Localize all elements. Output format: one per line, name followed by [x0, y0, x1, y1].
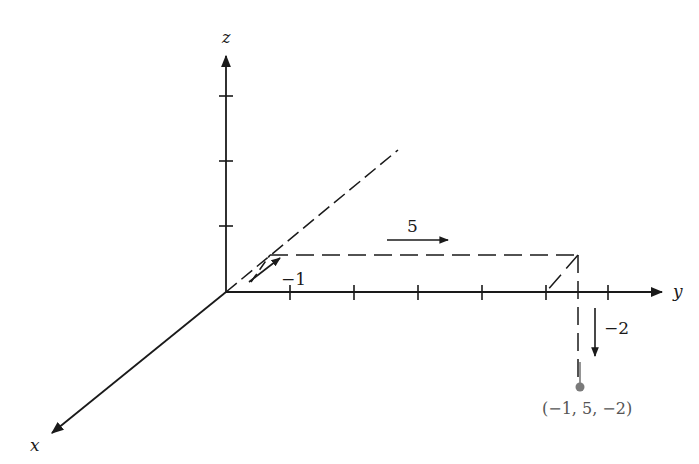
step-label-neg-z: −2 [604, 318, 629, 338]
negative-x-dashed-line [226, 150, 398, 292]
point-label: (−1, 5, −2) [542, 399, 632, 418]
step-label-neg-x: −1 [281, 269, 306, 289]
step-label-pos-y: 5 [407, 216, 418, 236]
diagram-canvas: z y x −1 5 [0, 0, 699, 464]
z-axis [219, 56, 233, 292]
z-axis-label: z [221, 28, 231, 47]
target-point [576, 383, 585, 392]
y-axis-label: y [672, 281, 683, 301]
x-axis [52, 292, 226, 433]
x-axis-label: x [30, 435, 40, 455]
